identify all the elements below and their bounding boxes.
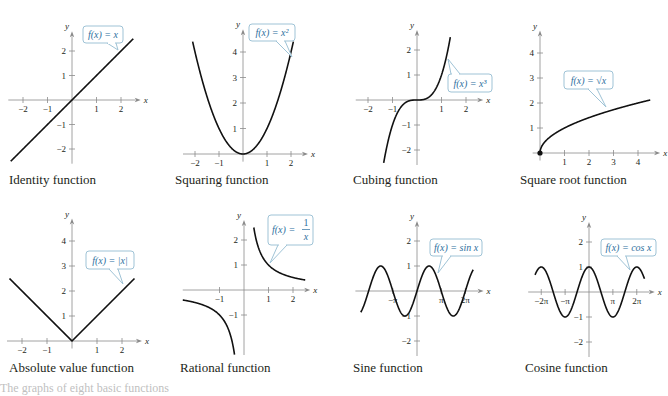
x-axis-label: x (485, 95, 490, 105)
panel-absolute-value: xy−2−1121234f(x) = |x| Absolute value fu… (0, 186, 167, 379)
y-axis-label: y (532, 21, 537, 31)
x-tick-label: −1 (42, 345, 52, 355)
start-point-dot (537, 150, 542, 155)
x-tick-label: 2π (632, 296, 642, 306)
function-label-text: f(x) = x² (255, 27, 289, 39)
panel-cubing: xy−2−112−2−112f(x) = x³ Cubing function (334, 0, 501, 193)
panel-rational: xy−112−112f(x) =1x Rational function (167, 186, 334, 379)
function-curve (183, 300, 235, 355)
y-tick-label: −1 (56, 120, 66, 130)
y-tick-label: 2 (530, 98, 535, 108)
axes: xy−2π−ππ2π−2−112 (528, 212, 662, 357)
y-tick-label: 2 (233, 98, 238, 108)
x-tick-label: 1 (562, 157, 567, 167)
y-axis-label: y (236, 210, 241, 220)
x-axis-label: x (143, 95, 148, 105)
y-axis-label: y (581, 212, 586, 222)
y-tick-label: 1 (407, 70, 412, 80)
function-label-callout: f(x) = cos x (601, 239, 656, 270)
figure-footer-text: The graphs of eight basic functions (0, 381, 169, 396)
x-tick-label: 1 (265, 158, 270, 168)
y-tick-label: 1 (530, 123, 535, 133)
function-label-callout: f(x) = sin x (430, 239, 482, 273)
x-tick-label: −2 (17, 345, 27, 355)
panel-sine: xy−ππ2π−2−112f(x) = sin x Sine function (334, 186, 501, 379)
y-tick-label: −1 (228, 310, 238, 320)
x-tick-label: 1 (439, 104, 444, 114)
caption-rational: Rational function (180, 360, 271, 376)
function-label-callout: f(x) = x² (249, 24, 295, 57)
y-tick-label: 1 (62, 71, 67, 81)
x-tick-label: −2π (534, 296, 549, 306)
y-tick-label: −2 (401, 145, 411, 155)
x-tick-label: 1 (266, 294, 271, 304)
x-tick-label: π (611, 296, 616, 306)
axes: xy−2−1121234 (183, 19, 315, 168)
cubing-graph: xy−2−112−2−112f(x) = x³ (334, 0, 501, 170)
x-tick-label: 1 (94, 104, 99, 114)
absolute-value-graph: xy−2−1121234f(x) = |x| (0, 186, 167, 356)
y-tick-label: −2 (573, 337, 583, 347)
y-tick-label: 2 (407, 236, 412, 246)
x-tick-label: 2 (587, 157, 592, 167)
caption-sine: Sine function (353, 360, 423, 376)
y-tick-label: −1 (401, 120, 411, 130)
square-root-graph: xy12341234f(x) = √x (501, 0, 668, 170)
x-tick-label: −2 (18, 104, 28, 114)
x-tick-label: 2 (464, 104, 469, 114)
x-tick-label: 1 (95, 345, 100, 355)
x-tick-label: 2 (119, 104, 124, 114)
x-tick-label: −π (560, 296, 570, 306)
function-label-text: f(x) = x³ (453, 78, 487, 90)
y-tick-label: 4 (530, 48, 535, 58)
y-tick-label: −2 (56, 144, 66, 154)
y-tick-label: 2 (407, 45, 412, 55)
function-label-text: f(x) = x (88, 29, 119, 41)
x-tick-label: 3 (611, 157, 616, 167)
y-tick-label: −1 (573, 312, 583, 322)
y-tick-label: 3 (233, 73, 238, 83)
axes: xy−ππ2π−2−112 (355, 211, 490, 356)
x-axis-label: x (144, 336, 149, 346)
x-axis-label: x (310, 149, 315, 159)
x-tick-label: 2 (291, 294, 296, 304)
function-label-callout: f(x) = x (83, 26, 123, 50)
rational-graph: xy−112−112f(x) =1x (167, 186, 334, 356)
y-tick-label: −2 (401, 336, 411, 346)
y-tick-label: 4 (233, 47, 238, 57)
caption-absolute-value: Absolute value function (9, 360, 134, 376)
function-label-text: f(x) = (272, 224, 295, 236)
svg-text:x: x (303, 231, 309, 242)
identity-graph: xy−2−112−2−112f(x) = x (0, 0, 167, 170)
function-label-callout: f(x) =1x (268, 215, 313, 263)
panel-identity: xy−2−112−2−112f(x) = x Identity function (0, 0, 167, 193)
y-tick-label: 2 (234, 235, 239, 245)
x-axis-label: x (657, 287, 662, 297)
panel-square-root: xy12341234f(x) = √x Square root function (501, 0, 668, 193)
x-tick-label: −1 (388, 104, 398, 114)
x-tick-label: −1 (43, 104, 53, 114)
y-axis-label: y (235, 19, 240, 29)
x-tick-label: 2 (289, 158, 294, 168)
y-axis-label: y (64, 209, 69, 219)
y-tick-label: 4 (62, 236, 67, 246)
y-tick-label: 1 (62, 311, 67, 321)
svg-text:1: 1 (304, 217, 309, 228)
function-label-text: f(x) = cos x (606, 242, 652, 254)
panel-cosine: xy−2π−ππ2π−2−112f(x) = cos x Cosine func… (501, 186, 668, 379)
function-label-callout: f(x) = x³ (448, 59, 492, 92)
function-label-callout: f(x) = √x (564, 71, 613, 107)
sine-graph: xy−ππ2π−2−112f(x) = sin x (334, 186, 501, 356)
x-tick-label: 4 (636, 157, 641, 167)
function-label-callout: f(x) = |x| (86, 251, 134, 284)
function-curve (540, 100, 650, 153)
y-tick-label: 2 (62, 286, 67, 296)
y-axis-label: y (64, 21, 69, 31)
y-axis-label: y (409, 20, 414, 30)
y-tick-label: 2 (62, 46, 67, 56)
y-axis-label: y (409, 211, 414, 221)
x-axis-label: x (662, 148, 667, 158)
y-tick-label: 2 (579, 237, 584, 247)
y-tick-label: 3 (530, 73, 535, 83)
x-tick-label: 2 (120, 345, 125, 355)
